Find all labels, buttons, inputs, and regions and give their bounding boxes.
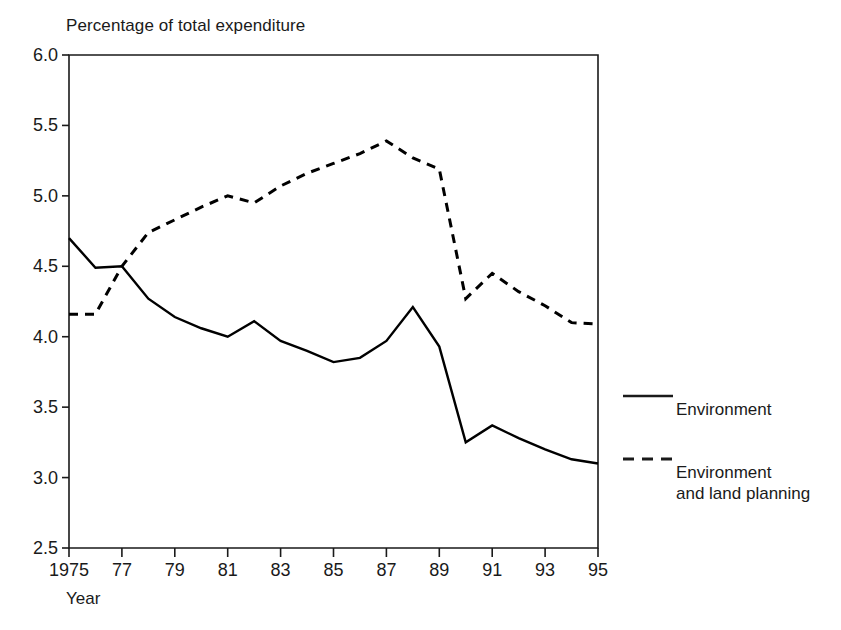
chart-title: Percentage of total expenditure — [66, 16, 305, 36]
legend-label-line2: and land planning — [676, 483, 810, 504]
y-axis-tick-label: 5.0 — [2, 185, 58, 206]
x-axis-title: Year — [66, 589, 100, 609]
line-chart-plot — [0, 0, 841, 630]
axes-group — [62, 55, 598, 557]
y-axis-tick-label: 3.0 — [2, 467, 58, 488]
y-axis-tick-label: 3.5 — [2, 397, 58, 418]
plot-frame — [69, 55, 598, 548]
x-axis-tick-label: 93 — [535, 560, 555, 581]
x-axis-tick-label: 87 — [376, 560, 396, 581]
y-axis-tick-label: 6.0 — [2, 45, 58, 66]
x-axis-tick-label: 83 — [271, 560, 291, 581]
x-axis-tick-label: 89 — [429, 560, 449, 581]
y-axis-tick-label: 5.5 — [2, 115, 58, 136]
legend-label-line1: Environment — [676, 399, 771, 420]
data-series-group — [69, 141, 598, 464]
legend-label-line1: Environment — [676, 462, 810, 483]
series-line-0 — [69, 238, 598, 463]
y-axis-tick-label: 4.0 — [2, 326, 58, 347]
x-axis-tick-label: 79 — [165, 560, 185, 581]
chart-figure: Percentage of total expenditure 2.53.03.… — [0, 0, 841, 630]
y-axis-tick-label: 2.5 — [2, 538, 58, 559]
legend-item-label: Environment — [676, 399, 771, 420]
x-axis-tick-label: 81 — [218, 560, 238, 581]
x-axis-tick-label: 1975 — [49, 560, 89, 581]
y-axis-tick-label: 4.5 — [2, 256, 58, 277]
x-axis-tick-label: 95 — [588, 560, 608, 581]
series-line-1 — [69, 141, 598, 324]
x-axis-tick-label: 77 — [112, 560, 132, 581]
x-axis-tick-label: 85 — [323, 560, 343, 581]
legend-swatches-group — [623, 396, 673, 459]
x-axis-tick-label: 91 — [482, 560, 502, 581]
legend-item-label: Environmentand land planning — [676, 462, 810, 504]
